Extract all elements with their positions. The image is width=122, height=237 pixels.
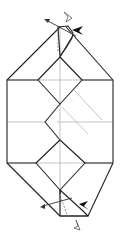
top-flap — [48, 21, 76, 56]
origami-diagram — [0, 0, 122, 237]
push-arrow-icon — [72, 26, 83, 35]
turn-arrow-bottom-icon — [40, 204, 45, 209]
turn-arrow-icon — [44, 19, 50, 23]
bottom-flap — [43, 190, 88, 216]
fold-arrow-bottom-icon — [74, 220, 80, 230]
inner-diamonds — [36, 37, 85, 194]
fold-arrow-icon — [64, 12, 72, 22]
